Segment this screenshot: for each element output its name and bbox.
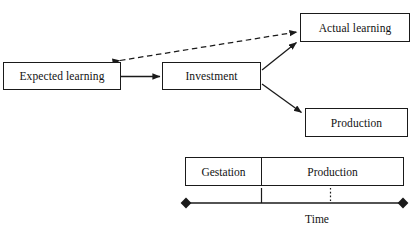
edge-actual-learning-feedback-dashed [120,32,297,61]
timeline-phase-production: Production [262,158,403,185]
time-axis-start-diamond-icon [181,198,192,209]
node-expected-learning-label: Expected learning [19,70,104,82]
edge-investment-to-production [262,84,302,113]
flowchart-diagram: Expected learning Investment Actual lear… [0,0,416,237]
edge-investment-to-actual-learning [262,43,297,71]
timeline-phase-bar: Gestation Production [185,157,404,186]
timeline-phase-gestation-label: Gestation [201,166,245,178]
node-investment: Investment [162,62,261,90]
node-production: Production [305,108,408,137]
node-investment-label: Investment [185,70,237,82]
timeline-phase-production-label: Production [307,166,357,178]
node-production-label: Production [331,117,382,129]
timeline-phase-gestation: Gestation [186,158,262,185]
time-axis-end-diamond-icon [398,198,409,209]
node-expected-learning: Expected learning [3,62,121,90]
node-actual-learning-label: Actual learning [319,22,392,34]
node-actual-learning: Actual learning [300,13,410,42]
time-axis-label: Time [0,213,416,225]
time-axis-label-text: Time [305,213,329,225]
